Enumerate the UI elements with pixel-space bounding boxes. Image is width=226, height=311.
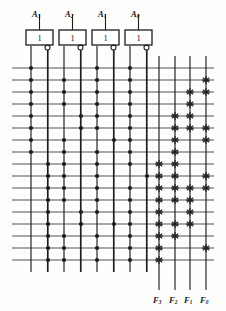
and-plane-connection-dot[interactable]: [128, 138, 132, 142]
or-plane-connection-cross[interactable]: [187, 89, 194, 96]
and-plane-connection-dot[interactable]: [62, 258, 66, 262]
or-plane-connection-cross[interactable]: [172, 233, 179, 240]
and-plane-connection-dot[interactable]: [46, 210, 50, 214]
or-plane-connection-cross[interactable]: [172, 197, 179, 204]
and-plane-connection-dot[interactable]: [95, 234, 99, 238]
and-plane-connection-dot[interactable]: [29, 138, 33, 142]
or-plane-connection-cross[interactable]: [156, 221, 163, 228]
and-plane-connection-dot[interactable]: [29, 90, 33, 94]
or-plane-connection-cross[interactable]: [203, 125, 210, 132]
and-plane-connection-dot[interactable]: [46, 174, 50, 178]
or-plane-connection-cross[interactable]: [156, 209, 163, 216]
and-plane-connection-dot[interactable]: [62, 138, 66, 142]
and-plane-connection-dot[interactable]: [46, 222, 50, 226]
or-plane-connection-cross[interactable]: [187, 113, 194, 120]
and-plane-connection-dot[interactable]: [95, 162, 99, 166]
or-plane-connection-cross[interactable]: [203, 89, 210, 96]
or-plane-connection-cross[interactable]: [172, 149, 179, 156]
or-plane-connection-cross[interactable]: [172, 125, 179, 132]
and-plane-connection-dot[interactable]: [46, 246, 50, 250]
and-plane-connection-dot[interactable]: [62, 162, 66, 166]
and-plane-connection-dot[interactable]: [62, 78, 66, 82]
and-plane-connection-dot[interactable]: [128, 198, 132, 202]
and-plane-connection-dot[interactable]: [128, 126, 132, 130]
and-plane-connection-dot[interactable]: [62, 246, 66, 250]
or-plane-connection-cross[interactable]: [203, 245, 210, 252]
or-plane-connection-cross[interactable]: [172, 161, 179, 168]
and-plane-connection-dot[interactable]: [29, 102, 33, 106]
and-plane-connection-dot[interactable]: [128, 150, 132, 154]
and-plane-connection-dot[interactable]: [128, 210, 132, 214]
and-plane-connection-dot[interactable]: [46, 258, 50, 262]
and-plane-connection-dot[interactable]: [79, 126, 83, 130]
and-plane-connection-dot[interactable]: [128, 258, 132, 262]
and-plane-connection-dot[interactable]: [62, 150, 66, 154]
and-plane-connection-dot[interactable]: [128, 90, 132, 94]
and-plane-connection-dot[interactable]: [128, 78, 132, 82]
or-plane-connection-cross[interactable]: [187, 125, 194, 132]
or-plane-connection-cross[interactable]: [156, 185, 163, 192]
or-plane-connection-cross[interactable]: [172, 173, 179, 180]
and-plane-connection-dot[interactable]: [128, 162, 132, 166]
and-plane-connection-dot[interactable]: [29, 78, 33, 82]
and-plane-connection-dot[interactable]: [62, 198, 66, 202]
and-plane-connection-dot[interactable]: [29, 66, 33, 70]
and-plane-connection-dot[interactable]: [112, 222, 116, 226]
or-plane-connection-cross[interactable]: [203, 77, 210, 84]
and-plane-connection-dot[interactable]: [29, 126, 33, 130]
or-plane-connection-cross[interactable]: [156, 257, 163, 264]
and-plane-connection-dot[interactable]: [112, 138, 116, 142]
and-plane-connection-dot[interactable]: [128, 186, 132, 190]
or-plane-connection-cross[interactable]: [156, 233, 163, 240]
and-plane-connection-dot[interactable]: [95, 66, 99, 70]
and-plane-connection-dot[interactable]: [128, 102, 132, 106]
and-plane-connection-dot[interactable]: [128, 246, 132, 250]
and-plane-connection-dot[interactable]: [128, 222, 132, 226]
and-plane-connection-dot[interactable]: [95, 246, 99, 250]
or-plane-connection-cross[interactable]: [156, 245, 163, 252]
or-plane-connection-cross[interactable]: [172, 221, 179, 228]
and-plane-connection-dot[interactable]: [128, 234, 132, 238]
or-plane-connection-cross[interactable]: [172, 137, 179, 144]
and-plane-connection-dot[interactable]: [95, 210, 99, 214]
and-plane-connection-dot[interactable]: [79, 114, 83, 118]
or-plane-connection-cross[interactable]: [172, 185, 179, 192]
or-plane-connection-cross[interactable]: [187, 209, 194, 216]
and-plane-connection-dot[interactable]: [46, 234, 50, 238]
or-plane-connection-cross[interactable]: [203, 173, 210, 180]
and-plane-connection-dot[interactable]: [95, 186, 99, 190]
and-plane-connection-dot[interactable]: [62, 234, 66, 238]
and-plane-connection-dot[interactable]: [145, 174, 149, 178]
and-plane-connection-dot[interactable]: [128, 114, 132, 118]
and-plane-connection-dot[interactable]: [95, 90, 99, 94]
and-plane-connection-dot[interactable]: [62, 174, 66, 178]
and-plane-connection-dot[interactable]: [95, 78, 99, 82]
and-plane-connection-dot[interactable]: [95, 258, 99, 262]
and-plane-connection-dot[interactable]: [95, 102, 99, 106]
or-plane-connection-cross[interactable]: [156, 161, 163, 168]
and-plane-connection-dot[interactable]: [29, 150, 33, 154]
and-plane-connection-dot[interactable]: [62, 102, 66, 106]
and-plane-connection-dot[interactable]: [95, 198, 99, 202]
and-plane-connection-dot[interactable]: [79, 210, 83, 214]
and-plane-connection-dot[interactable]: [79, 222, 83, 226]
or-plane-connection-cross[interactable]: [187, 185, 194, 192]
or-plane-connection-cross[interactable]: [187, 221, 194, 228]
and-plane-connection-dot[interactable]: [95, 174, 99, 178]
or-plane-connection-cross[interactable]: [156, 197, 163, 204]
or-plane-connection-cross[interactable]: [203, 185, 210, 192]
and-plane-connection-dot[interactable]: [128, 66, 132, 70]
and-plane-connection-dot[interactable]: [46, 198, 50, 202]
and-plane-connection-dot[interactable]: [29, 114, 33, 118]
or-plane-connection-cross[interactable]: [172, 113, 179, 120]
and-plane-connection-dot[interactable]: [95, 114, 99, 118]
and-plane-connection-dot[interactable]: [95, 150, 99, 154]
and-plane-connection-dot[interactable]: [95, 126, 99, 130]
and-plane-connection-dot[interactable]: [62, 90, 66, 94]
and-plane-connection-dot[interactable]: [46, 186, 50, 190]
and-plane-connection-dot[interactable]: [46, 162, 50, 166]
and-plane-connection-dot[interactable]: [62, 186, 66, 190]
or-plane-connection-cross[interactable]: [187, 197, 194, 204]
or-plane-connection-cross[interactable]: [203, 137, 210, 144]
or-plane-connection-cross[interactable]: [187, 101, 194, 108]
